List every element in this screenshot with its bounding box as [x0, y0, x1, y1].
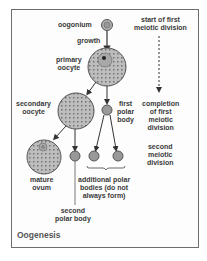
label-growth: growth	[77, 37, 100, 45]
label-start-first-meiotic: start of firstmeiotic division	[134, 16, 187, 32]
arrow-to-secondary	[88, 82, 96, 93]
label-additional-polar-bodies: additional polarbodies (do notalways for…	[78, 176, 130, 200]
diagram-title: Oogenesis	[17, 230, 60, 240]
arrow-to-additional-polar-1	[96, 115, 104, 149]
secondary-oocyte-cell	[58, 93, 94, 129]
arrow-to-ovum	[55, 126, 66, 138]
arrow-to-additional-polar-2	[110, 115, 116, 149]
primary-oocyte-cell	[88, 48, 126, 86]
label-second-polar-body: secondpolar body	[55, 207, 91, 223]
second-polar-body-cell	[70, 151, 80, 161]
label-secondary-oocyte: secondaryoocyte	[16, 100, 51, 116]
brace	[87, 166, 125, 170]
first-polar-body-cell	[102, 105, 112, 115]
additional-polar-body-2	[113, 151, 123, 161]
mature-ovum-cell	[27, 140, 61, 174]
label-completion-first-meiotic: completionof firstmeioticdivision	[142, 100, 179, 132]
label-mature-ovum: matureovum	[30, 176, 53, 192]
label-primary-oocyte: primaryoocyte	[56, 56, 82, 72]
additional-polar-body-1	[89, 151, 99, 161]
label-second-meiotic: secondmeioticdivision	[147, 143, 173, 167]
label-first-polar-body: firstpolarbody	[117, 100, 134, 124]
oogonium-cell	[102, 20, 113, 31]
label-oogonium: oogonium	[58, 21, 92, 29]
